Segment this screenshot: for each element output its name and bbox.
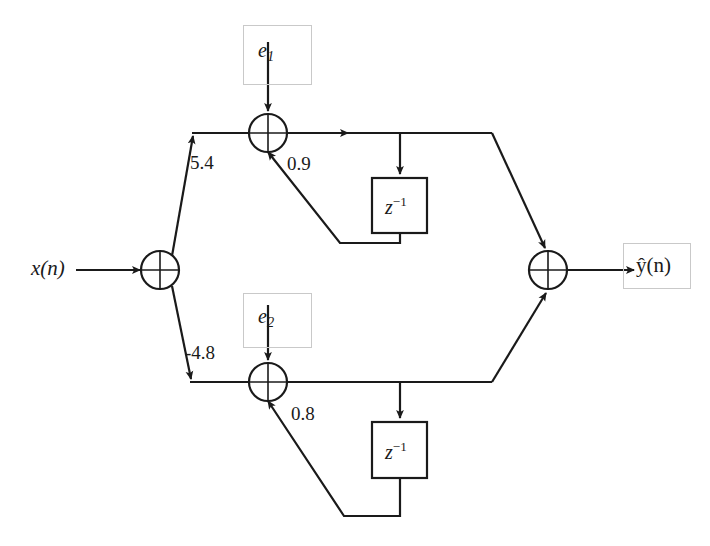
- y-hat-output-label: ŷ(n): [636, 255, 671, 276]
- gain-label-5p4: 5.4: [190, 153, 214, 172]
- edge-gain-minus4p8: [172, 286, 191, 379]
- edge-feedback-lower: [268, 401, 400, 516]
- gain-label-0p9: 0.9: [287, 154, 311, 173]
- y-hat-output-box: ŷ(n): [623, 243, 691, 289]
- edge-upper-to-output-adder: [492, 133, 545, 248]
- edge-lower-to-output-adder: [492, 293, 546, 382]
- flow-graph-canvas: [0, 0, 710, 546]
- delay-lower-label: z−1: [385, 440, 407, 462]
- x-input-label: x(n): [31, 258, 65, 279]
- gain-label-0p8: 0.8: [291, 404, 315, 423]
- signal-flow-diagram: e1 e2 ŷ(n) x(n) 5.4 0.9 -4.8 0.8 z−1 z−1: [0, 0, 710, 546]
- e2-source-label: e2: [258, 306, 274, 329]
- delay-upper-label: z−1: [385, 195, 407, 217]
- e1-source-label: e1: [258, 40, 274, 63]
- gain-label-minus4p8: -4.8: [185, 343, 215, 362]
- e1-source-box: e1: [243, 25, 312, 85]
- e2-source-box: e2: [243, 293, 312, 348]
